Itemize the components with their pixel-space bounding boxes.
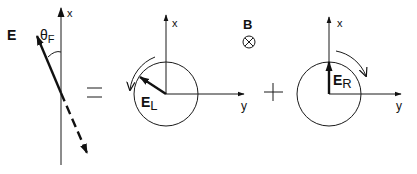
- e-right-label: ER: [333, 72, 352, 91]
- x-axis-label-middle: x: [172, 17, 178, 29]
- e-vector-label: E: [7, 27, 16, 43]
- faraday-angle-arc: [48, 52, 61, 57]
- e-left-vector: [140, 77, 166, 94]
- y-axis-label-right: y: [396, 99, 402, 113]
- left-circular-panel: x y EL: [130, 15, 247, 126]
- faraday-rotation-diagram: x E θF x y EL B: [0, 0, 417, 174]
- faraday-angle-label: θF: [40, 27, 55, 45]
- equals-sign: [87, 88, 102, 97]
- magnetic-field-indicator: B: [243, 17, 255, 48]
- x-axis-label-left: x: [67, 7, 73, 19]
- e-left-label: EL: [141, 94, 158, 113]
- e-vector-dashed-extension: [61, 93, 87, 153]
- plus-sign: [264, 83, 283, 101]
- x-axis-label-right: x: [337, 17, 343, 29]
- linear-polarization-panel: x E θF: [7, 7, 87, 165]
- y-axis-label-middle: y: [241, 99, 247, 113]
- b-field-label: B: [243, 17, 252, 32]
- right-circular-panel: x y ER: [297, 17, 402, 126]
- into-page-icon: [243, 36, 255, 48]
